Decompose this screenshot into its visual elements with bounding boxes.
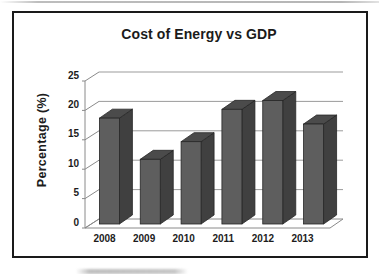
- x-axis-label: 2008: [93, 233, 116, 244]
- bar-2010: [181, 142, 201, 224]
- bar-side-2010: [201, 133, 214, 224]
- y-axis-tick-label: 5: [73, 187, 79, 198]
- x-axis-label: 2013: [291, 233, 314, 244]
- x-axis-label: 2010: [173, 233, 196, 244]
- bar-2008: [99, 118, 119, 224]
- x-axis-label: 2009: [133, 233, 156, 244]
- y-axis-tick-label: 20: [68, 99, 80, 110]
- bar-2011: [222, 109, 242, 224]
- y-axis-tick-connector: [85, 131, 99, 140]
- y-axis-title: Percentage (%): [35, 93, 49, 188]
- y-axis-tick-connector: [85, 160, 99, 169]
- y-axis-tick-connector: [85, 190, 99, 199]
- bar-2009: [140, 159, 160, 224]
- cutoff-text-artifact: [76, 269, 188, 274]
- y-axis-tick-connector: [85, 101, 99, 110]
- y-axis-tick-label: 0: [73, 217, 79, 228]
- bar-side-2008: [119, 109, 132, 224]
- x-axis-label: 2011: [212, 233, 234, 244]
- bar-side-2009: [160, 150, 173, 224]
- y-axis-tick-label: 10: [68, 158, 80, 169]
- bar-side-2012: [283, 92, 296, 224]
- x-axis-label: 2012: [252, 233, 275, 244]
- bar-side-2013: [324, 115, 337, 224]
- bar-side-2011: [242, 100, 255, 224]
- y-axis-tick-label: 25: [68, 70, 80, 81]
- y-axis-tick-connector: [85, 72, 99, 81]
- bar-2012: [263, 101, 283, 224]
- y-axis-tick-label: 15: [68, 128, 80, 139]
- bar-2013: [304, 124, 324, 224]
- page: Cost of Energy vs GDP 200820092010201120…: [0, 0, 379, 274]
- chart-plot: 2008200920102011201220130510152025Percen…: [0, 0, 379, 274]
